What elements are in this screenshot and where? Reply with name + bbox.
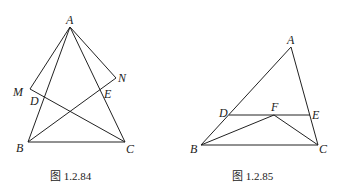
point-label-m: M [12, 85, 24, 99]
figure-1-2-85: A D F E B C 图 1.2.85 [190, 33, 328, 182]
figure-caption: 图 1.2.84 [50, 170, 92, 182]
point-label-n: N [117, 71, 127, 85]
point-label-b: B [190, 142, 198, 156]
point-label-c: C [126, 142, 135, 156]
point-label-c: C [319, 142, 328, 156]
point-label-e: E [103, 87, 112, 101]
point-label-f: F [270, 100, 279, 114]
point-label-d: D [29, 94, 39, 108]
figure-caption: 图 1.2.85 [232, 170, 274, 182]
point-label-d: D [218, 106, 228, 120]
point-label-a: A [286, 33, 295, 47]
point-label-e: E [311, 108, 320, 122]
geometry-figures: A M N D E B C 图 1.2.84 A D F E B C 图 1.2… [0, 0, 341, 193]
figure-1-2-84: A M N D E B C 图 1.2.84 [12, 13, 135, 182]
point-label-b: B [16, 141, 24, 155]
point-label-a: A [65, 13, 74, 27]
